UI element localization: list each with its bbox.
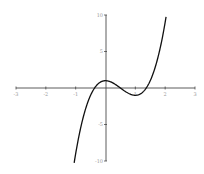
function-curve [74,17,166,163]
y-tick-label: 10 [97,12,103,18]
x-tick-label: -3 [14,91,19,97]
x-tick-label: 2 [164,91,167,97]
y-tick-label: -5 [98,121,103,127]
axes: -3-2-1123 -10-5510 [14,12,197,164]
x-tick-label: -2 [43,91,48,97]
x-tick-label: -1 [73,91,78,97]
y-tick-label: -10 [95,158,103,164]
function-plot: -3-2-1123 -10-5510 [0,0,204,174]
y-tick-label: 5 [100,48,103,54]
x-tick-label: 3 [193,91,196,97]
x-tick-label: 1 [134,91,137,97]
